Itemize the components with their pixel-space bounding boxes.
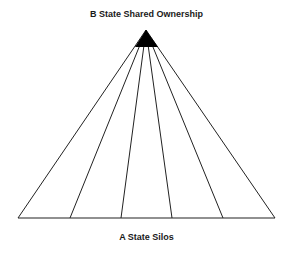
fan-diagram <box>0 0 289 253</box>
ray-line-4 <box>146 30 223 218</box>
ray-line-5 <box>146 30 275 218</box>
apex-triangle <box>135 30 158 47</box>
ray-line-2 <box>121 30 146 218</box>
ray-line-3 <box>146 30 172 218</box>
ray-line-0 <box>18 30 146 218</box>
bottom-label-silos: A State Silos <box>2 232 289 242</box>
